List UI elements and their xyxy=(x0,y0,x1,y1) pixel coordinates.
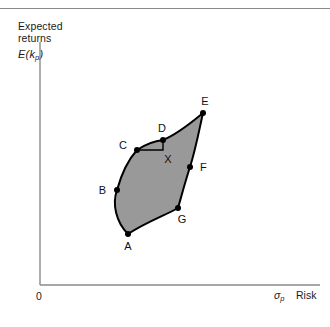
vertex-marker-c xyxy=(134,147,140,153)
vertex-label-b: B xyxy=(99,184,106,196)
vertex-marker-a xyxy=(125,231,131,237)
vertex-marker-f xyxy=(187,164,193,170)
vertex-label-g: G xyxy=(178,213,187,225)
vertex-marker-b xyxy=(114,187,120,193)
vertex-label-c: C xyxy=(119,139,127,151)
vertex-marker-g xyxy=(175,205,181,211)
figure-container: Expected returns E(kp) 0 σp Risk ABCDEFG… xyxy=(0,0,330,327)
vertex-label-d: D xyxy=(158,122,166,134)
vertex-marker-d xyxy=(160,137,166,143)
vertex-marker-e xyxy=(200,110,206,116)
vertex-label-a: A xyxy=(124,240,132,252)
vertex-label-f: F xyxy=(200,161,207,173)
plot-area: ABCDEFGX xyxy=(0,0,330,327)
vertex-label-x: X xyxy=(164,153,172,165)
vertex-label-e: E xyxy=(201,95,208,107)
